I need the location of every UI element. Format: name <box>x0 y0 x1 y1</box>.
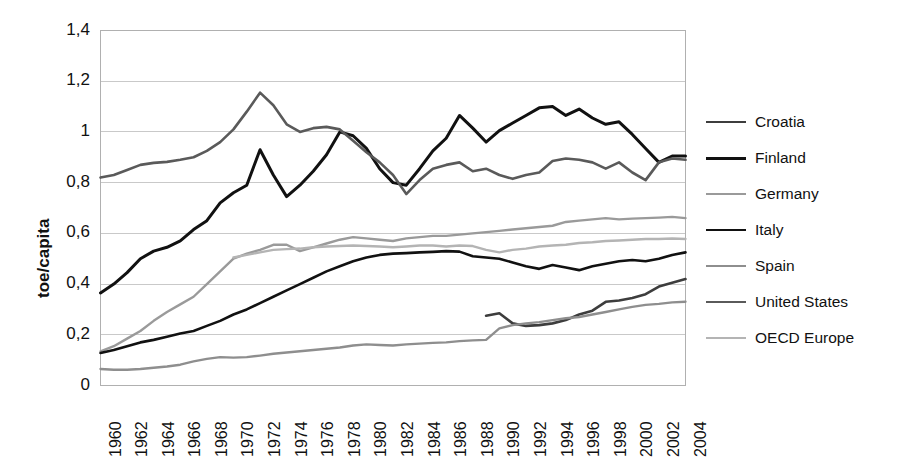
x-tick-label: 1982 <box>399 421 417 457</box>
legend-item-label: OECD Europe <box>755 329 854 347</box>
legend-item-oecd-europe[interactable]: OECD Europe <box>706 329 854 347</box>
x-tick-label: 1984 <box>426 421 444 457</box>
x-tick-label: 1966 <box>186 421 204 457</box>
legend-line-swatch <box>706 229 746 231</box>
legend-line-swatch <box>706 265 746 267</box>
x-tick-label: 1980 <box>372 421 390 457</box>
y-tick-label: 1,4 <box>44 20 90 40</box>
x-tick-label: 2000 <box>638 421 656 457</box>
y-tick-label: 0,6 <box>44 222 90 242</box>
legend-line-swatch <box>706 337 746 339</box>
x-tick-label: 1978 <box>346 421 364 457</box>
legend-line-swatch <box>706 301 746 303</box>
legend-item-label: Croatia <box>755 113 805 131</box>
legend-line-swatch <box>706 121 746 123</box>
x-tick-label: 1964 <box>160 421 178 457</box>
y-tick-label: 1,2 <box>44 70 90 90</box>
series-line-united-states <box>101 93 686 194</box>
x-tick-label: 1996 <box>585 421 603 457</box>
y-tick-label: 0,2 <box>44 324 90 344</box>
series-line-croatia <box>486 279 685 326</box>
y-tick-label: 0,8 <box>44 172 90 192</box>
y-tick-label: 0 <box>44 375 90 395</box>
legend-item-label: United States <box>755 293 848 311</box>
x-tick-label: 1992 <box>532 421 550 457</box>
series-line-oecd-europe <box>233 238 685 257</box>
x-tick-label: 1960 <box>107 421 125 457</box>
energy-consumption-line-chart: toe/capita 1,41,210,80,60,40,20 19601962… <box>0 0 910 468</box>
x-tick-label: 2004 <box>692 421 710 457</box>
legend-line-swatch <box>706 193 746 195</box>
series-line-spain <box>101 302 686 370</box>
legend-item-label: Germany <box>755 185 819 203</box>
legend-item-label: Italy <box>755 221 783 239</box>
x-tick-label: 1976 <box>319 421 337 457</box>
legend-item-spain[interactable]: Spain <box>706 257 795 275</box>
x-tick-label: 1970 <box>239 421 257 457</box>
x-tick-label: 1990 <box>505 421 523 457</box>
x-tick-label: 1974 <box>293 421 311 457</box>
x-tick-label: 1994 <box>559 421 577 457</box>
y-tick-label: 1 <box>44 121 90 141</box>
legend-item-croatia[interactable]: Croatia <box>706 113 805 131</box>
legend-item-italy[interactable]: Italy <box>706 221 783 239</box>
legend-item-label: Spain <box>755 257 795 275</box>
x-tick-label: 1998 <box>612 421 630 457</box>
legend-line-swatch <box>706 157 746 160</box>
y-tick-label: 0,4 <box>44 273 90 293</box>
series-line-italy <box>101 251 686 353</box>
legend-item-finland[interactable]: Finland <box>706 149 806 167</box>
legend-item-united-states[interactable]: United States <box>706 293 848 311</box>
data-series-group <box>101 93 686 370</box>
legend-item-label: Finland <box>755 149 806 167</box>
x-tick-label: 1988 <box>479 421 497 457</box>
x-tick-label: 1986 <box>452 421 470 457</box>
x-tick-label: 1968 <box>213 421 231 457</box>
x-tick-label: 1962 <box>133 421 151 457</box>
legend-item-germany[interactable]: Germany <box>706 185 819 203</box>
x-tick-label: 1972 <box>266 421 284 457</box>
x-tick-label: 2002 <box>665 421 683 457</box>
